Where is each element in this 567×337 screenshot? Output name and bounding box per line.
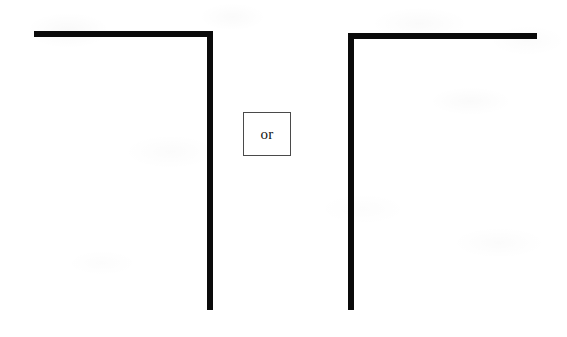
left-shape-top-bar [34,31,213,37]
right-shape-vertical-bar [348,33,354,310]
or-connector-box: or [243,112,291,156]
left-shape-vertical-bar [207,33,213,310]
right-shape-top-bar [348,33,537,39]
or-connector-label: or [261,127,274,142]
figure-canvas: or [0,0,567,337]
paper-texture-overlay [0,0,567,337]
